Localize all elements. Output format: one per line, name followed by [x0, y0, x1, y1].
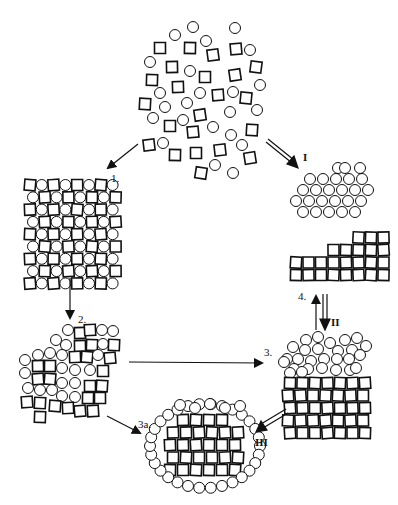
square-particle — [347, 377, 358, 388]
circle-particle — [28, 266, 39, 277]
circle-particle — [158, 138, 169, 149]
circle-particle — [357, 174, 368, 185]
square-particle — [297, 377, 308, 388]
circle-particle — [20, 355, 31, 366]
square-particle — [190, 439, 202, 451]
label-step3: 3. — [264, 346, 273, 358]
square-particle — [95, 278, 106, 289]
square-particle — [320, 390, 331, 401]
circle-particle — [355, 350, 366, 361]
square-particle — [199, 71, 210, 82]
circle-particle — [297, 367, 308, 378]
circle-particle — [36, 204, 47, 215]
circle-particle — [98, 216, 109, 227]
square-particle — [334, 402, 345, 413]
square-particle — [284, 402, 296, 414]
arrow-pathI — [266, 139, 298, 168]
square-particle — [110, 266, 121, 277]
square-particle — [96, 380, 108, 392]
square-particle — [347, 402, 358, 413]
circle-particle — [36, 253, 47, 264]
circle-particle — [288, 342, 299, 353]
circle-particle — [63, 325, 74, 336]
circle-particle — [51, 192, 62, 203]
square-particle — [166, 61, 177, 72]
square-particle — [219, 452, 231, 464]
square-particle — [246, 124, 258, 136]
circle-particle — [201, 36, 212, 47]
circle-particle — [228, 87, 239, 98]
square-particle — [282, 390, 294, 402]
square-particle — [146, 74, 157, 85]
square-particle — [24, 253, 35, 264]
square-particle — [229, 439, 240, 450]
square-particle — [212, 89, 224, 101]
circle-particle — [60, 229, 71, 240]
circle-particle — [331, 365, 342, 376]
square-particle — [353, 232, 365, 244]
circle-particle — [47, 385, 58, 396]
label-step3a: 3a. — [138, 418, 151, 430]
circle-particle — [155, 88, 166, 99]
circle-particle — [351, 363, 362, 374]
circle-particle — [70, 392, 81, 403]
label-step4: 4. — [298, 290, 307, 302]
square-particle — [95, 204, 106, 215]
square-particle — [315, 257, 326, 268]
square-particle — [365, 232, 376, 243]
square-particle — [232, 427, 244, 439]
square-particle — [365, 257, 377, 269]
circle-particle — [255, 80, 266, 91]
circle-particle — [205, 399, 216, 410]
circle-particle — [175, 400, 186, 411]
circle-particle — [220, 403, 231, 414]
circle-particle — [45, 348, 56, 359]
square-particle — [84, 380, 95, 391]
square-particle — [172, 81, 183, 92]
circle-particle — [216, 480, 227, 491]
circle-particle — [313, 344, 324, 355]
square-particle — [378, 269, 389, 280]
square-particle — [340, 244, 351, 255]
circle-particle — [225, 107, 236, 118]
square-particle — [32, 373, 44, 385]
circle-particle — [57, 350, 68, 361]
square-particle — [24, 278, 36, 290]
circle-particle — [23, 383, 34, 394]
square-particle — [39, 216, 51, 228]
circle-particle — [178, 115, 189, 126]
square-particle — [295, 390, 307, 402]
circle-particle — [337, 185, 348, 196]
square-particle — [303, 269, 314, 280]
circle-particle — [36, 229, 47, 240]
circle-particle — [28, 241, 39, 252]
circle-particle — [194, 482, 205, 493]
square-particle — [48, 253, 59, 264]
square-particle — [193, 427, 205, 439]
square-particle — [295, 415, 307, 427]
square-particle — [357, 390, 368, 401]
circle-particle — [20, 368, 31, 379]
square-particle — [315, 269, 326, 280]
circle-particle — [75, 241, 86, 252]
square-particle — [303, 257, 314, 268]
circle-particle — [337, 207, 348, 218]
circle-particle — [75, 266, 86, 277]
square-particle — [334, 427, 345, 438]
square-particle — [63, 192, 74, 203]
circle-particle — [98, 266, 109, 277]
diagram-canvas: 1. I 2. 3. 3a. 4. II III — [0, 0, 398, 505]
square-particle — [86, 216, 97, 227]
square-particle — [216, 464, 227, 475]
circle-particle — [340, 335, 351, 346]
label-step1: 1. — [111, 172, 120, 184]
circle-particle — [344, 354, 355, 365]
circle-particle — [226, 130, 237, 141]
square-particle — [322, 427, 334, 439]
square-particle — [87, 405, 99, 417]
circle-particle — [98, 339, 109, 350]
square-particle — [177, 414, 188, 425]
circle-particle — [205, 482, 216, 493]
square-particle — [94, 392, 105, 403]
circle-particle — [107, 278, 118, 289]
